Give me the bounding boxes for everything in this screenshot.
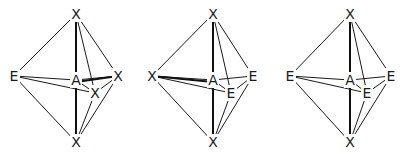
atom-label-left: X: [147, 68, 157, 84]
atom-label-front: E: [363, 85, 372, 101]
atom-label-right: X: [113, 68, 123, 84]
bipyramid-2: XXXEEA: [146, 6, 259, 150]
edge-top-right: [350, 14, 391, 76]
edge-bottom-left: [152, 76, 213, 142]
atom-label-bottom: X: [208, 134, 218, 150]
edge-top-right: [213, 14, 253, 76]
atom-label-front: E: [227, 85, 236, 101]
atom-label-left: E: [286, 68, 295, 84]
atom-label-center: A: [345, 72, 355, 88]
atom-label-center: A: [208, 72, 218, 88]
edge-top-left: [290, 14, 350, 76]
edge-top-right: [76, 14, 118, 76]
edge-top-left: [14, 14, 76, 76]
atom-label-bottom: X: [345, 134, 355, 150]
edge-top-left: [152, 14, 213, 76]
atom-label-top: X: [208, 6, 218, 22]
atom-label-front: X: [90, 85, 100, 101]
atom-label-left: E: [10, 68, 19, 84]
molecular-geometry-diagrams: XXEXXAXXXEEAXXEEEA: [0, 0, 410, 157]
bipyramid-3: XXEEEA: [284, 6, 397, 150]
atom-label-bottom: X: [71, 134, 81, 150]
atom-label-right: E: [249, 68, 258, 84]
bipyramid-1: XXEXXA: [8, 6, 124, 150]
edge-bottom-left: [14, 76, 76, 142]
atom-label-center: A: [71, 72, 81, 88]
bond-right: [350, 76, 391, 80]
atom-label-right: E: [387, 68, 396, 84]
atom-label-top: X: [345, 6, 355, 22]
atom-label-top: X: [71, 6, 81, 22]
edge-bottom-left: [290, 76, 350, 142]
